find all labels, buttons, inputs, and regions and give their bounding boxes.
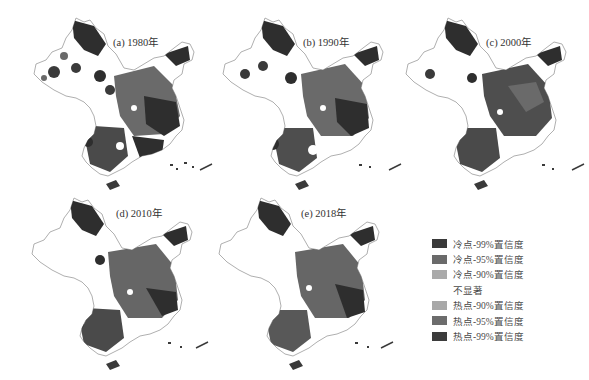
map-panel-1990: (b) 1990年 bbox=[207, 8, 407, 198]
swatch-hot-99 bbox=[432, 332, 447, 341]
legend-item-hot-90: 热点-90%置信度 bbox=[432, 298, 572, 313]
map-panel-2010: (d) 2010年 bbox=[14, 190, 214, 380]
swatch-cold-95 bbox=[432, 255, 447, 264]
map-panel-1980: (a) 1980年 bbox=[18, 8, 218, 198]
legend-item-hot-95: 热点-95%置信度 bbox=[432, 313, 572, 328]
map-panel-2018: (e) 2018年 bbox=[205, 190, 405, 380]
map-panel-2000: (c) 2000年 bbox=[392, 8, 589, 198]
legend-item-cold-95: 冷点-95%置信度 bbox=[432, 251, 572, 266]
legend-label: 热点-99%置信度 bbox=[453, 329, 524, 343]
legend-item-not-significant: 不显著 bbox=[432, 282, 572, 297]
legend-label: 冷点-99%置信度 bbox=[453, 237, 524, 251]
swatch-hot-90 bbox=[432, 301, 447, 310]
legend: 冷点-99%置信度 冷点-95%置信度 冷点-90%置信度 不显著 热点-90%… bbox=[432, 236, 572, 344]
china-map-2010 bbox=[14, 190, 214, 380]
legend-item-hot-99: 热点-99%置信度 bbox=[432, 328, 572, 343]
legend-item-cold-90: 冷点-90%置信度 bbox=[432, 267, 572, 282]
legend-item-cold-99: 冷点-99%置信度 bbox=[432, 236, 572, 251]
legend-label: 不显著 bbox=[453, 283, 483, 297]
swatch-not-significant bbox=[432, 285, 447, 294]
panel-title: (c) 2000年 bbox=[486, 34, 531, 49]
swatch-cold-90 bbox=[432, 270, 447, 279]
swatch-cold-99 bbox=[432, 239, 447, 248]
legend-label: 热点-95%置信度 bbox=[453, 314, 524, 328]
panel-title: (e) 2018年 bbox=[301, 205, 346, 220]
panel-title: (b) 1990年 bbox=[303, 34, 349, 49]
panel-title: (a) 1980年 bbox=[113, 34, 158, 49]
legend-label: 冷点-95%置信度 bbox=[453, 252, 524, 266]
legend-label: 热点-90%置信度 bbox=[453, 298, 524, 312]
legend-label: 冷点-90%置信度 bbox=[453, 267, 524, 281]
panel-title: (d) 2010年 bbox=[116, 205, 162, 220]
swatch-hot-95 bbox=[432, 316, 447, 325]
